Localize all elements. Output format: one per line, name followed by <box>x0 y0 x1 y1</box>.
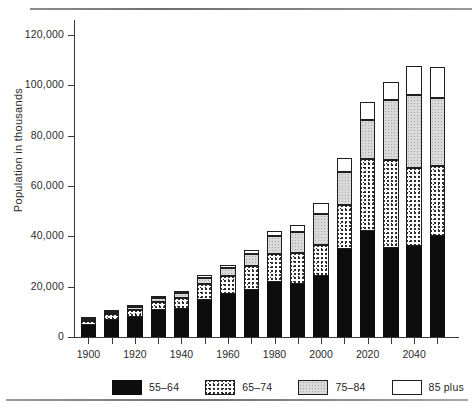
bar-segment-s75 <box>81 319 96 321</box>
legend-item-s85[interactable]: 85 plus <box>392 380 464 395</box>
x-axis-tick <box>298 337 299 344</box>
legend-label: 55–64 <box>149 381 179 393</box>
bar-segment-s75 <box>383 100 398 160</box>
bar-segment-s55 <box>406 246 421 337</box>
x-axis-tick <box>368 337 369 344</box>
x-axis-tick <box>181 337 182 344</box>
bar-segment-s55 <box>337 249 352 337</box>
bar-segment-s55 <box>127 317 142 337</box>
bar-2020[interactable] <box>360 35 375 337</box>
y-axis-tick-label: 100,000 <box>0 78 64 90</box>
bar-segment-s85 <box>313 203 328 214</box>
bar-segment-s75 <box>313 214 328 245</box>
bar-segment-s85 <box>244 250 259 254</box>
bar-segment-s85 <box>174 291 189 293</box>
x-axis-tick-label: 2040 <box>391 348 437 360</box>
bar-segment-s75 <box>174 293 189 298</box>
bar-segment-s55 <box>197 300 212 337</box>
bar-1910[interactable] <box>104 35 119 337</box>
bar-segment-s65 <box>360 159 375 231</box>
bar-segment-s55 <box>290 284 305 337</box>
bar-1960[interactable] <box>220 35 235 337</box>
x-axis-tick-label: 2000 <box>298 348 344 360</box>
y-axis-tick-label: 80,000 <box>0 129 64 141</box>
bar-2030[interactable] <box>383 35 398 337</box>
bar-segment-s75 <box>337 172 352 205</box>
x-axis-tick-label: 1960 <box>205 348 251 360</box>
bar-segment-s75 <box>430 98 445 166</box>
legend-label: 75–84 <box>335 381 365 393</box>
bar-segment-s55 <box>104 320 119 337</box>
x-axis-tick <box>414 337 415 344</box>
legend-swatch-s75 <box>298 380 328 395</box>
bar-segment-s55 <box>267 282 282 337</box>
bar-segment-s65 <box>220 276 235 294</box>
y-axis-tick-label: 40,000 <box>0 229 64 241</box>
bar-2000[interactable] <box>313 35 328 337</box>
bar-segment-s85 <box>151 296 166 298</box>
bar-segment-s55 <box>360 231 375 337</box>
legend-item-s65[interactable]: 65–74 <box>205 380 272 395</box>
bar-segment-s55 <box>174 309 189 337</box>
bar-segment-s75 <box>220 268 235 277</box>
bar-segment-s65 <box>430 166 445 235</box>
bar-1900[interactable] <box>81 35 96 337</box>
x-axis-tick-label: 1900 <box>65 348 111 360</box>
bar-segment-s75 <box>360 120 375 159</box>
chart-legend: 55–6465–7475–8485 plus <box>112 377 472 397</box>
bar-segment-s65 <box>290 253 305 283</box>
bar-segment-s85 <box>197 275 212 277</box>
bar-segment-s65 <box>267 254 282 283</box>
bar-segment-s85 <box>337 158 352 173</box>
y-axis-title: Population in thousands <box>12 88 24 212</box>
bar-1920[interactable] <box>127 35 142 337</box>
bar-segment-s65 <box>244 266 259 290</box>
x-axis-tick-label: 1920 <box>112 348 158 360</box>
bar-segment-s55 <box>313 276 328 337</box>
bar-1950[interactable] <box>197 35 212 337</box>
bar-segment-s75 <box>406 95 421 168</box>
bar-segment-s85 <box>81 317 96 319</box>
bar-2050[interactable] <box>430 35 445 337</box>
legend-item-s55[interactable]: 55–64 <box>112 380 179 395</box>
bar-segment-s65 <box>127 310 142 317</box>
y-axis-tick-label: 60,000 <box>0 179 64 191</box>
bar-2010[interactable] <box>337 35 352 337</box>
legend-swatch-s65 <box>205 380 235 395</box>
x-axis-line <box>74 337 459 338</box>
bar-1970[interactable] <box>244 35 259 337</box>
bar-1930[interactable] <box>151 35 166 337</box>
y-axis-tick-label: 20,000 <box>0 280 64 292</box>
x-axis-tick <box>251 337 252 344</box>
x-axis-tick <box>88 337 89 344</box>
bar-segment-s55 <box>244 290 259 337</box>
bar-segment-s65 <box>337 205 352 249</box>
bar-segment-s75 <box>104 312 119 314</box>
bar-segment-s65 <box>174 298 189 310</box>
bar-segment-s65 <box>81 321 96 325</box>
y-axis-tick-label: 120,000 <box>0 28 64 40</box>
bar-segment-s75 <box>127 307 142 310</box>
bar-1990[interactable] <box>290 35 305 337</box>
bar-segment-s65 <box>313 245 328 276</box>
bar-segment-s65 <box>197 284 212 300</box>
x-axis-tick <box>112 337 113 344</box>
bar-segment-s65 <box>151 302 166 311</box>
bar-2040[interactable] <box>406 35 421 337</box>
bar-segment-s75 <box>244 254 259 266</box>
legend-label: 85 plus <box>429 381 464 393</box>
bar-1940[interactable] <box>174 35 189 337</box>
legend-swatch-s55 <box>112 380 142 395</box>
bar-segment-s85 <box>383 82 398 100</box>
x-axis-tick <box>391 337 392 344</box>
bar-1980[interactable] <box>267 35 282 337</box>
bar-segment-s75 <box>197 278 212 285</box>
x-axis-tick-label: 2020 <box>345 348 391 360</box>
legend-item-s75[interactable]: 75–84 <box>298 380 365 395</box>
y-axis-tick-label: 0 <box>0 330 64 342</box>
bar-segment-s55 <box>151 310 166 337</box>
bar-segment-s85 <box>220 265 235 268</box>
bar-segment-s85 <box>104 310 119 312</box>
bar-segment-s55 <box>220 294 235 337</box>
x-axis-tick <box>135 337 136 344</box>
